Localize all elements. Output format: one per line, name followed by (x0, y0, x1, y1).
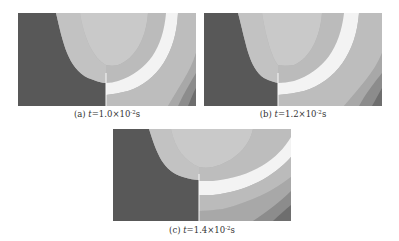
caption-label: (c) (169, 225, 180, 235)
caption-label: (b) (260, 109, 272, 119)
caption-eq: =1.2×10 (278, 109, 317, 119)
caption-b: (b) t=1.2×10-2s (204, 109, 382, 119)
contour-plot-a (18, 13, 196, 106)
caption-a: (a) t=1.0×10-2s (18, 109, 196, 119)
caption-c: (c) t=1.4×10-2s (113, 225, 291, 235)
caption-eq: =1.4×10 (187, 225, 226, 235)
caption-eq: =1.0×10 (92, 109, 131, 119)
contour-panel-a (18, 13, 196, 106)
contour-plot-c (113, 129, 291, 221)
contour-panel-c (113, 129, 291, 221)
caption-label: (a) (74, 109, 86, 119)
caption-unit: s (231, 225, 235, 235)
contour-plot-b (204, 13, 382, 106)
contour-panel-b (204, 13, 382, 106)
caption-unit: s (136, 109, 140, 119)
caption-unit: s (322, 109, 326, 119)
